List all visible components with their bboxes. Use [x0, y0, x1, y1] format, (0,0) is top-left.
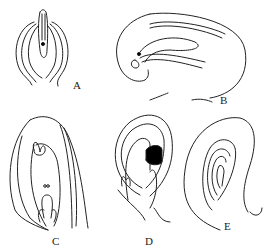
panel-label-c: C	[52, 235, 59, 247]
panel-d-drawing	[115, 115, 172, 222]
ovule-diagram: A B C D E	[0, 0, 265, 252]
panel-label-e: E	[224, 220, 231, 232]
panel-a-drawing	[16, 10, 68, 86]
panel-label-b: B	[220, 94, 227, 106]
diagram-drawing	[0, 0, 265, 252]
panel-label-d: D	[145, 235, 153, 247]
panel-b-drawing	[117, 13, 246, 102]
panel-e-drawing	[184, 118, 262, 230]
panel-c-drawing	[10, 117, 88, 230]
panel-label-a: A	[73, 79, 81, 91]
